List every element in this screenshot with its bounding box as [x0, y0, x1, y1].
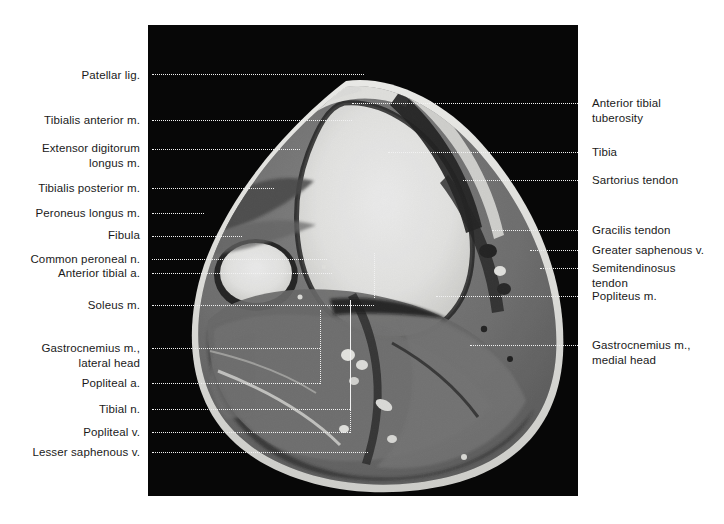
- leader-v-sartorius: [374, 253, 375, 298]
- label-peroneus-longus-m: Peroneus longus m.: [36, 206, 140, 221]
- leader-tibialis-anterior: [152, 120, 352, 121]
- leader-peroneus-longus: [152, 213, 204, 214]
- label-anterior-tibial-a: Anterior tibial a.: [58, 266, 140, 281]
- leader-gastroc-lateral: [152, 348, 320, 349]
- leader-soleus-m: [152, 305, 374, 306]
- label-patellar-lig: Patellar lig.: [82, 68, 140, 83]
- label-tibia: Tibia: [592, 145, 617, 160]
- mri-axial-image: [148, 25, 578, 496]
- label-popliteus-m: Popliteus m.: [592, 289, 657, 304]
- label-gastrocnemius-m-medial-head: Gastrocnemius m., medial head: [592, 338, 691, 367]
- label-popliteal-a: Popliteal a.: [82, 376, 140, 391]
- leader-gastroc-medial: [470, 345, 578, 346]
- leader-tibialis-posterior: [152, 188, 274, 189]
- label-common-peroneal-n: Common peroneal n.: [30, 252, 140, 267]
- leader-common-peroneal-n: [152, 259, 327, 260]
- label-sartorius-tendon: Sartorius tendon: [592, 173, 678, 188]
- leader-anterior-tibial-tuberosity: [352, 103, 578, 104]
- leader-v-popliteal-v: [350, 300, 351, 433]
- label-anterior-tibial-tuberosity: Anterior tibial tuberosity: [592, 96, 661, 125]
- leader-patellar-lig: [152, 74, 364, 75]
- leader-extensor-digitorum: [152, 149, 300, 150]
- label-tibialis-anterior-m: Tibialis anterior m.: [44, 113, 140, 128]
- leader-tibial-n: [152, 409, 350, 410]
- leader-popliteal-a: [152, 383, 320, 384]
- leader-fibula: [152, 236, 242, 237]
- mri-raster: [148, 25, 578, 496]
- leader-popliteal-v: [152, 432, 350, 433]
- label-gracilis-tendon: Gracilis tendon: [592, 223, 671, 238]
- leader-greater-saphenous-v: [530, 250, 578, 251]
- leader-anterior-tibial-a: [152, 273, 332, 274]
- label-extensor-digitorum-longus-m: Extensor digitorum longus m.: [42, 141, 140, 170]
- label-gastrocnemius-m-lateral-head: Gastrocnemius m., lateral head: [41, 341, 140, 370]
- label-greater-saphenous-v: Greater saphenous v.: [592, 243, 704, 258]
- label-lesser-saphenous-v: Lesser saphenous v.: [32, 445, 140, 460]
- leader-semitendinosus-tendon: [540, 268, 578, 269]
- leader-tibia: [388, 152, 578, 153]
- leader-popliteus-m: [436, 296, 578, 297]
- leader-lesser-saphenous-v: [152, 452, 368, 453]
- label-tibial-n: Tibial n.: [99, 402, 140, 417]
- leader-v-popliteal-a: [320, 310, 321, 384]
- label-tibialis-posterior-m: Tibialis posterior m.: [38, 181, 140, 196]
- leader-gracilis-tendon: [492, 230, 578, 231]
- label-semitendinosus-tendon: Semitendinosus tendon: [592, 261, 676, 290]
- label-soleus-m: Soleus m.: [88, 298, 140, 313]
- anatomy-figure: Patellar lig.Tibialis anterior m.Extenso…: [0, 0, 724, 524]
- label-popliteal-v: Popliteal v.: [83, 425, 140, 440]
- label-fibula: Fibula: [108, 228, 140, 243]
- leader-sartorius-tendon: [463, 180, 578, 181]
